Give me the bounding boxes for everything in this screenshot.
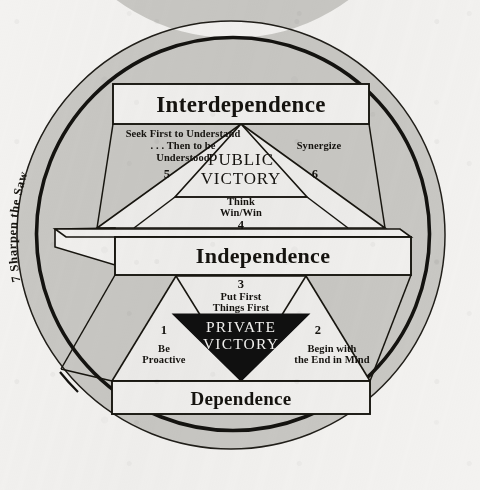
habit-1-line1: Be [128, 343, 200, 355]
public-victory-line1: PUBLIC [191, 150, 291, 170]
private-victory-line1: PRIVATE [191, 318, 291, 336]
habit-2-line1: Begin with [279, 343, 385, 355]
habit-5-number: 5 [155, 167, 179, 181]
dependence-left-foot [61, 369, 112, 381]
habit-5-line1: Seek First to Understand [108, 128, 258, 140]
habit-3-line1: Put First [199, 291, 283, 303]
independence-label: Independence [115, 244, 411, 269]
habit-1-number: 1 [152, 323, 176, 337]
habit-4-number: 4 [229, 218, 253, 232]
habit-4-line1: Think [201, 196, 281, 208]
habit-3-line2: Things First [199, 302, 283, 314]
habit-6-number: 6 [303, 167, 327, 181]
interdependence-label: Interdependence [113, 92, 369, 118]
interdependence-right-diagonal [369, 124, 385, 228]
habit-1-line2: Proactive [128, 354, 200, 366]
habit-2-line2: the End in Mind [279, 354, 385, 366]
habit-6-label: Synergize [277, 140, 361, 152]
dependence-left-diagonal [61, 275, 115, 369]
diagram-stage: 7 Sharpen the Saw [0, 0, 480, 490]
habit-4-line2: Win/Win [201, 207, 281, 219]
habit-2-number: 2 [306, 323, 330, 337]
dependence-label: Dependence [112, 388, 370, 409]
habit-3-number: 3 [229, 277, 253, 291]
private-victory-line2: VICTORY [191, 335, 291, 353]
public-victory-line2: VICTORY [191, 169, 291, 189]
diagram-page: 7 Sharpen the Saw [0, 0, 480, 490]
